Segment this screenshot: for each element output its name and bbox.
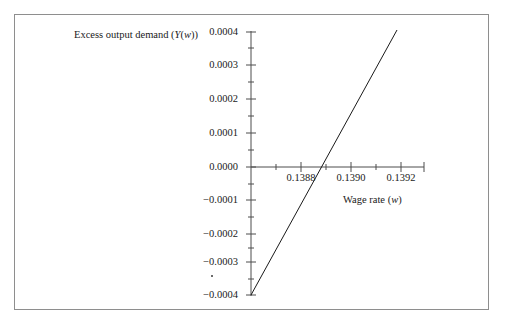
- y-axis-title-tail: (w)): [180, 29, 198, 40]
- stray-dot-artifact: [211, 275, 213, 277]
- x-axis-title: Wage rate (w): [343, 195, 402, 206]
- y-axis-title-arg: w: [184, 29, 191, 40]
- y-tick-label: 0.0003: [150, 60, 238, 71]
- y-axis-title: Excess output demand (Y(w)): [74, 30, 198, 41]
- x-axis-title-tail: ): [398, 194, 402, 205]
- y-tick-label: −0.0002: [146, 229, 238, 240]
- y-tick-label: 0.0002: [150, 94, 238, 105]
- figure-container: 0.0004 0.0003 0.0002 0.0001 0.0000 −0.00…: [0, 0, 505, 325]
- y-tick-label: −0.0004: [146, 290, 238, 301]
- y-axis-title-text: Excess output demand (: [74, 29, 175, 40]
- y-tick-label: 0.0001: [150, 128, 238, 139]
- x-axis-title-text: Wage rate (: [343, 194, 391, 205]
- x-tick-label: 0.1392: [371, 173, 431, 184]
- y-tick-label: 0.0000: [150, 162, 238, 173]
- y-tick-label: −0.0003: [146, 257, 238, 268]
- data-series-line: [251, 30, 397, 295]
- y-tick-label: −0.0001: [146, 195, 238, 206]
- plot-area: [0, 0, 505, 325]
